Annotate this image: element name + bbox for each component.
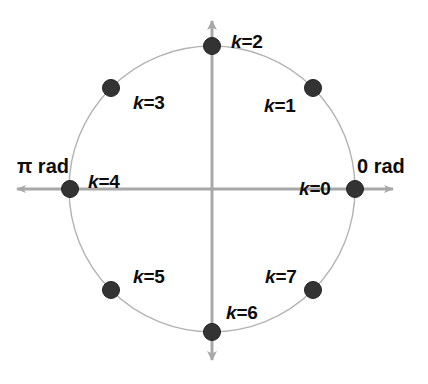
constellation-point-k7[interactable]	[305, 282, 322, 299]
point-label-k7: k=7	[265, 267, 297, 286]
point-label-value: =7	[275, 266, 296, 287]
constellation-point-k5[interactable]	[103, 282, 120, 299]
point-label-k6: k=6	[226, 303, 258, 322]
point-label-variable: k	[133, 92, 143, 113]
point-label-value: =5	[143, 266, 164, 287]
constellation-point-k1[interactable]	[305, 80, 322, 97]
point-label-variable: k	[226, 302, 236, 323]
point-label-k4: k=4	[88, 172, 120, 191]
point-label-variable: k	[264, 95, 274, 116]
point-label-value: =2	[241, 31, 262, 52]
constellation-point-k3[interactable]	[103, 80, 120, 97]
point-label-value: =1	[274, 95, 295, 116]
point-label-k2: k=2	[231, 32, 263, 51]
point-label-k0: k=0	[299, 179, 331, 198]
constellation-plot-svg	[0, 0, 428, 384]
axis-label-pi-rad: π rad	[17, 156, 69, 176]
constellation-point-k4[interactable]	[62, 181, 79, 198]
point-label-variable: k	[299, 178, 309, 199]
point-label-variable: k	[88, 171, 98, 192]
point-label-variable: k	[265, 266, 275, 287]
point-label-variable: k	[133, 266, 143, 287]
point-label-k3: k=3	[133, 93, 165, 112]
constellation-diagram-figure: k=0k=1k=2k=3k=4k=5k=6k=7 π rad 0 rad	[0, 0, 428, 384]
point-label-variable: k	[231, 31, 241, 52]
point-label-value: =4	[98, 171, 119, 192]
point-label-k1: k=1	[264, 96, 296, 115]
point-label-value: =0	[309, 178, 330, 199]
point-label-value: =6	[236, 302, 257, 323]
constellation-point-k2[interactable]	[204, 38, 221, 55]
constellation-point-k6[interactable]	[204, 324, 221, 341]
constellation-point-k0[interactable]	[347, 181, 364, 198]
point-label-k5: k=5	[133, 267, 165, 286]
point-label-value: =3	[143, 92, 164, 113]
axis-label-zero-rad: 0 rad	[357, 156, 405, 176]
